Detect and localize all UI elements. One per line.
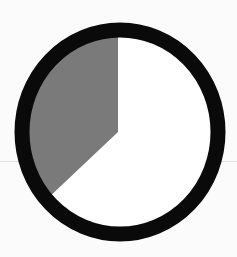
- circle-sector-diagram: [0, 0, 237, 257]
